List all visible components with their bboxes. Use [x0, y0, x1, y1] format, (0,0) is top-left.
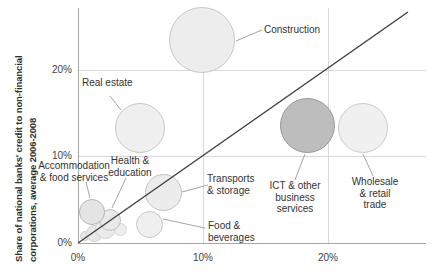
- gridline-y-20: [78, 70, 426, 71]
- y-tick-label-0: 0%: [34, 237, 72, 248]
- bubble-transports-storage: [145, 174, 182, 211]
- bubble-wholesale-retail-trade: [338, 103, 388, 153]
- leader-line-accommodation: [86, 182, 90, 198]
- annotation-wholesale: Wholesale & retail trade: [344, 176, 406, 211]
- x-tick-label-10: 10%: [181, 252, 225, 263]
- leader-line-real-estate: [110, 96, 121, 110]
- x-tick-label-0: 0%: [56, 252, 100, 263]
- y-axis-title: Share of national banks' credit to non-f…: [0, 0, 34, 277]
- leader-line-food: [163, 219, 205, 228]
- bubble-chart: Share of national banks' credit to non-f…: [0, 0, 432, 277]
- x-tick-label-20: 20%: [306, 252, 350, 263]
- annotation-transports: Transports & storage: [207, 173, 273, 196]
- bubble-real-estate: [115, 103, 165, 153]
- x-axis-line: [78, 243, 426, 244]
- bubble-food-beverages: [136, 211, 163, 238]
- annotation-health: Health & education: [100, 155, 160, 178]
- annotation-real-estate: Real estate: [82, 77, 152, 89]
- y-tick-label-20: 20%: [34, 64, 72, 75]
- bubble-accommodation-food-services: [79, 199, 105, 225]
- leader-line-construction: [236, 30, 262, 41]
- annotation-food: Food & beverages: [208, 220, 274, 243]
- y-axis-title-line-1: Share of national banks' credit to non-f…: [13, 56, 24, 263]
- bubble-ict-other-business-services: [280, 98, 335, 153]
- annotation-construction: Construction: [264, 24, 344, 36]
- bubble-construction: [169, 7, 235, 73]
- leader-line-wholesale: [363, 154, 373, 176]
- leader-line-ict: [295, 154, 305, 180]
- leader-line-transports: [182, 185, 208, 192]
